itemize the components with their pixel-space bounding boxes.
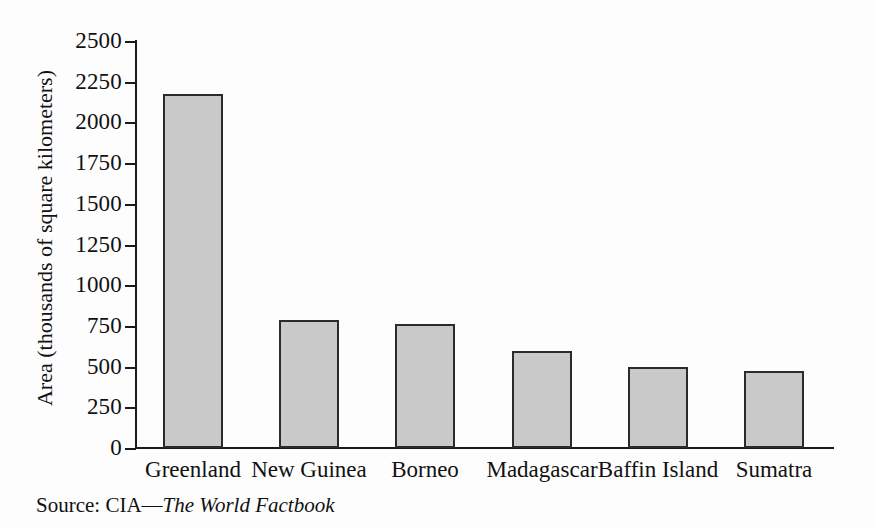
y-tick-mark [125,204,136,206]
y-tick-mark [125,41,136,43]
source-work-title: The World Factbook [163,493,335,517]
bar-borneo [395,324,455,448]
y-tick-label: 2000 [42,109,122,135]
y-tick-label: 1000 [42,272,122,298]
y-tick-mark [125,122,136,124]
bar-new-guinea [279,320,339,448]
y-tick-mark [125,448,136,450]
y-tick-mark [125,245,136,247]
y-tick-mark [125,285,136,287]
bar-baffin-island [628,367,688,448]
y-tick-mark [125,82,136,84]
bar-greenland [163,94,223,448]
y-tick-label: 1500 [42,191,122,217]
y-tick-mark [125,326,136,328]
x-axis-line [136,447,834,449]
y-tick-label: 1250 [42,232,122,258]
bar-sumatra [744,371,804,448]
y-tick-mark [125,367,136,369]
x-label-sumatra: Sumatra [684,455,864,485]
source-caption: Source: CIA—The World Factbook [36,492,334,518]
y-tick-mark [125,163,136,165]
y-tick-label: 250 [42,394,122,420]
y-tick-label: 1750 [42,150,122,176]
source-prefix: Source: CIA [36,493,142,517]
y-tick-mark [125,407,136,409]
bar-madagascar [512,351,572,448]
y-tick-label: 2250 [42,69,122,95]
source-dash: — [142,493,163,517]
bar-chart-figure: Area (thousands of square kilometers) 02… [0,0,875,528]
y-tick-label: 2500 [42,28,122,54]
y-tick-label: 500 [42,354,122,380]
y-tick-label: 750 [42,313,122,339]
